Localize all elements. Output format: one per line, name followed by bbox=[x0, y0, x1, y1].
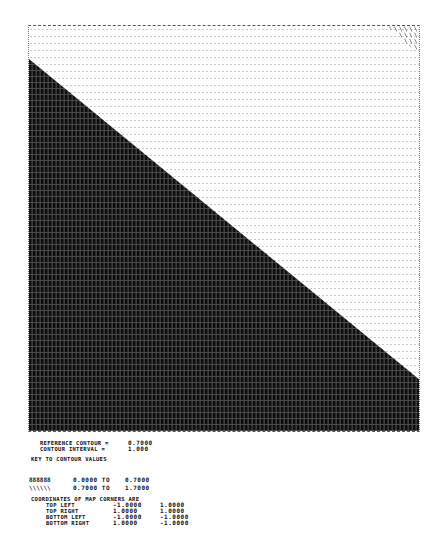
contour-interval-value: 1.000 bbox=[128, 446, 149, 452]
legend-to-0: 0.7000 bbox=[125, 477, 150, 483]
corner-y-bottom-right: -1.0000 bbox=[160, 520, 189, 526]
key-title: KEY TO CONTOUR VALUES bbox=[31, 456, 107, 462]
legend-to-1: 1.7000 bbox=[125, 485, 150, 491]
legend-from-1: 0.7000 TO bbox=[73, 485, 110, 491]
contour-map: \ bbox=[28, 25, 420, 432]
contour-interval-label: CONTOUR INTERVAL = bbox=[40, 446, 105, 452]
corner-label-bottom-right: BOTTOM RIGHT bbox=[46, 520, 89, 526]
legend-from-0: 0.0000 TO bbox=[73, 477, 110, 483]
legend-symbol-1: \\\\\\ bbox=[29, 485, 51, 491]
legend-symbol-0: 888888 bbox=[29, 477, 51, 483]
low-contour-region bbox=[29, 59, 420, 432]
high-contour-corner bbox=[387, 26, 420, 56]
contour-shading: \ bbox=[29, 26, 420, 432]
corner-x-bottom-right: 1.0000 bbox=[113, 520, 138, 526]
